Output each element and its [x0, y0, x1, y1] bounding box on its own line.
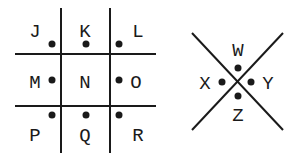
dot-q [83, 112, 90, 119]
dot-o [116, 77, 123, 84]
letter-w: W [232, 40, 244, 62]
letter-y: Y [262, 73, 274, 95]
dot-y [248, 79, 255, 86]
letter-p: P [29, 125, 40, 147]
dot-k [83, 41, 90, 48]
letter-o: O [130, 72, 141, 94]
dot-w [235, 65, 242, 72]
letter-n: N [79, 72, 90, 94]
grid-letters: J K L M N O P Q R [29, 21, 143, 147]
letter-j: J [29, 21, 40, 43]
dot-j [49, 41, 56, 48]
letter-k: K [79, 21, 91, 43]
letter-l: L [132, 21, 143, 43]
letter-z: Z [232, 105, 243, 127]
dot-p [49, 112, 56, 119]
dot-r [116, 112, 123, 119]
letter-x: X [199, 73, 211, 95]
letter-q: Q [79, 125, 90, 147]
letter-m: M [29, 72, 40, 94]
dot-m [49, 77, 56, 84]
dot-x [219, 79, 226, 86]
pigpen-cipher-diagram: J K L M N O P Q R W X Y Z [0, 0, 302, 155]
letter-r: R [132, 125, 143, 147]
dot-l [116, 41, 123, 48]
dot-z [235, 93, 242, 100]
